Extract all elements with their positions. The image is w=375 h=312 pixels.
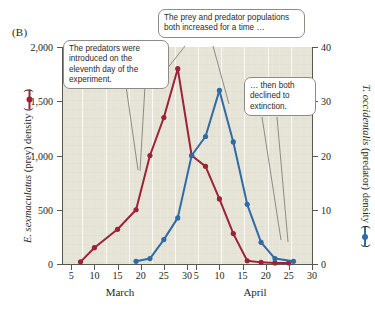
ticklabel-x-apr-15: 15 (238, 270, 248, 281)
data-point (175, 66, 180, 71)
data-point (147, 256, 152, 261)
panel-letter: (B) (12, 26, 27, 38)
tick-right-0 (313, 264, 318, 265)
axis-title-left: E. sexmaculatus (prey) density () (18, 61, 40, 271)
ticklabel-right-10: 10 (321, 204, 331, 215)
tick-right-40 (313, 47, 318, 48)
ticklabel-right-40: 40 (321, 42, 331, 53)
ticklabel-x-apr-30: 30 (307, 270, 317, 281)
callout-predators-introduced: The predators were introduced on the ele… (63, 40, 169, 89)
ticklabel-x-apr-25: 25 (284, 270, 294, 281)
ticklabel-right-20: 20 (321, 150, 331, 161)
ticklabel-x-apr-20: 20 (261, 270, 271, 281)
ticklabel-right-0: 0 (321, 259, 326, 270)
ticklabel-x-mar-10: 10 (89, 270, 99, 281)
ticklabel-x-apr-5: 5 (194, 270, 199, 281)
data-point (203, 134, 208, 139)
ticklabel-x-mar-20: 20 (136, 270, 146, 281)
axis-title-right: T. occidentalis (predator) density () (355, 59, 375, 274)
month-label-april: April (243, 286, 266, 298)
callout-both-increased: The prey and predator populations both i… (158, 9, 305, 38)
legend-key-prey-icon (25, 89, 34, 111)
data-point (133, 207, 138, 212)
data-point (175, 215, 180, 220)
data-point (161, 237, 166, 242)
data-point (203, 164, 208, 169)
data-point (217, 196, 222, 201)
tick-right-20 (313, 156, 318, 157)
month-label-march: March (106, 286, 135, 298)
ticklabel-x-mar-5: 5 (69, 270, 74, 281)
data-point (245, 258, 250, 263)
data-point (272, 256, 277, 261)
data-point (291, 259, 296, 264)
data-point (258, 240, 263, 245)
ticklabel-right-30: 30 (321, 96, 331, 107)
tick-left-0 (57, 264, 62, 265)
callout-both-declined: … then both declined to extinction. (244, 77, 316, 116)
tick-right-10 (313, 210, 318, 211)
data-point (147, 153, 152, 158)
ticklabel-x-apr-10: 10 (214, 270, 224, 281)
data-point (189, 153, 194, 158)
axis-title-right-rest: (predator) density ( (361, 145, 372, 229)
data-point (161, 115, 166, 120)
data-point (245, 202, 250, 207)
data-point (217, 88, 222, 93)
ticklabel-left-2000: 2,000 (8, 42, 53, 53)
ticklabel-x-mar-30: 30 (182, 270, 192, 281)
axis-title-right-species: T. occidentalis (361, 84, 372, 145)
data-point (133, 259, 138, 264)
data-point (258, 260, 263, 265)
legend-key-predator-icon (361, 226, 370, 248)
series-predator-line (136, 90, 293, 261)
data-point (231, 231, 236, 236)
axis-title-left-rest: (prey) density ( (22, 107, 33, 174)
data-point (115, 227, 120, 232)
axis-title-left-species: E. sexmaculatus (22, 175, 33, 243)
ticklabel-x-mar-15: 15 (113, 270, 123, 281)
data-point (78, 259, 83, 264)
data-point (231, 139, 236, 144)
data-point (92, 245, 97, 250)
ticklabel-x-mar-25: 25 (159, 270, 169, 281)
